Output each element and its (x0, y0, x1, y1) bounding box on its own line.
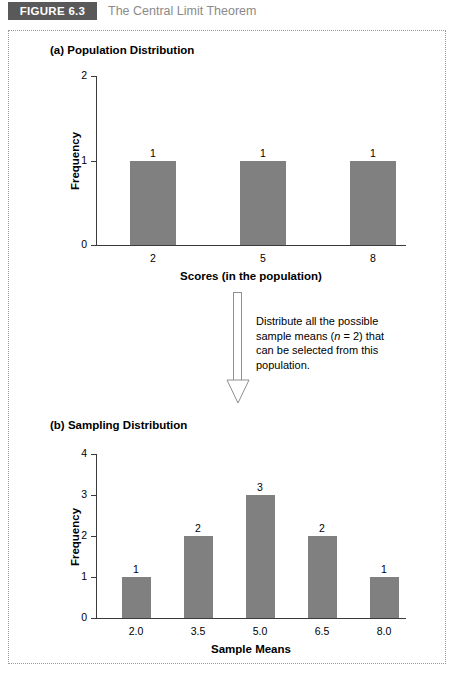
y-tick-label: 1 (81, 154, 87, 166)
bar-value-label: 3 (240, 481, 280, 493)
bar: 1 (240, 161, 286, 246)
x-tick-label: 6.5 (292, 625, 352, 637)
plot-area-b: Frequency 01234 12.023.535.026.518.0 Sam… (96, 454, 406, 619)
annotation-line-4: population. (256, 359, 310, 371)
y-tick-label: 0 (81, 611, 87, 623)
y-tick-label: 3 (81, 488, 87, 500)
bar: 1 (122, 577, 151, 618)
x-tick-label: 8 (343, 252, 403, 264)
flow-arrow (226, 292, 250, 404)
x-tick-label: 8.0 (354, 625, 414, 637)
chart-sampling-distribution: Frequency 01234 12.023.535.026.518.0 Sam… (60, 446, 420, 646)
bar-value-label: 2 (178, 522, 218, 534)
figure-title: The Central Limit Theorem (108, 2, 256, 20)
y-tick: 1 (91, 161, 96, 162)
bar: 2 (184, 536, 213, 618)
arrow-shaft (233, 292, 242, 380)
bar-value-label: 1 (116, 563, 156, 575)
x-tick-label: 5.0 (230, 625, 290, 637)
annotation-line-2-pre: sample means ( (256, 330, 334, 342)
y-tick: 2 (91, 76, 96, 77)
y-tick: 0 (91, 618, 96, 619)
y-tick: 2 (91, 536, 96, 537)
annotation-line-1: Distribute all the possible (256, 315, 378, 327)
y-tick: 4 (91, 454, 96, 455)
y-axis-label-b: Frequency (69, 507, 81, 565)
y-axis-b (96, 454, 97, 619)
y-tick-label: 2 (81, 69, 87, 81)
bar-value-label: 2 (302, 522, 342, 534)
panel-b-title: (b) Sampling Distribution (50, 419, 187, 431)
x-tick-label: 3.5 (168, 625, 228, 637)
bar: 3 (246, 495, 275, 618)
plot-area-a: Frequency 012 121518 Scores (in the popu… (96, 76, 406, 246)
figure-number-badge: FIGURE 6.3 (8, 2, 97, 20)
y-tick-label: 0 (81, 238, 87, 250)
bar-value-label: 1 (133, 147, 173, 159)
arrow-head-icon (226, 378, 250, 404)
y-tick: 1 (91, 577, 96, 578)
y-tick-label: 4 (81, 447, 87, 459)
x-axis-label-a: Scores (in the population) (96, 270, 406, 282)
bar: 1 (130, 161, 176, 246)
bar-value-label: 1 (364, 563, 404, 575)
x-tick-label: 5 (233, 252, 293, 264)
annotation-line-2-post: = 2) that (340, 330, 384, 342)
x-axis-label-b: Sample Means (96, 643, 406, 655)
figure-header: FIGURE 6.3 The Central Limit Theorem (8, 0, 446, 24)
y-tick-label: 2 (81, 529, 87, 541)
annotation-text: Distribute all the possible sample means… (256, 314, 426, 372)
bar: 2 (308, 536, 337, 618)
y-tick: 0 (91, 245, 96, 246)
y-axis-label-a: Frequency (69, 132, 81, 190)
y-tick-label: 1 (81, 570, 87, 582)
x-tick-label: 2 (123, 252, 183, 264)
x-tick-label: 2.0 (106, 625, 166, 637)
bar: 1 (370, 577, 399, 618)
bar-value-label: 1 (353, 147, 393, 159)
bar-value-label: 1 (243, 147, 283, 159)
x-axis-b (96, 618, 406, 619)
chart-population-distribution: Frequency 012 121518 Scores (in the popu… (60, 68, 420, 273)
x-axis-a (96, 245, 406, 246)
y-tick: 3 (91, 495, 96, 496)
bar: 1 (350, 161, 396, 246)
y-axis-a (96, 76, 97, 246)
panel-a-title: (a) Population Distribution (50, 44, 194, 56)
annotation-line-3: can be selected from this (256, 344, 378, 356)
